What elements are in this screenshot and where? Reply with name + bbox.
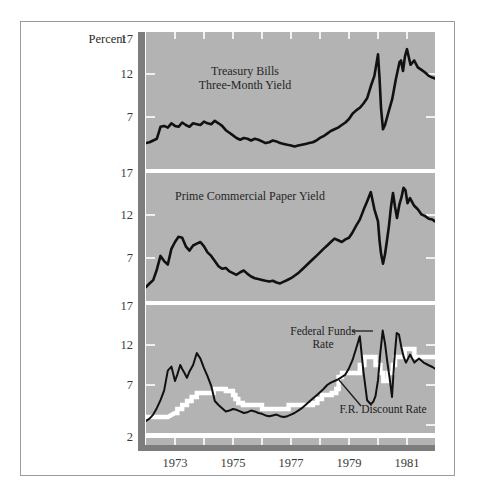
annotation-fr-discount-rate: F.R. Discount Rate — [339, 403, 426, 415]
panel-separator-2-3 — [146, 301, 435, 305]
panel3-baseline-band — [146, 433, 435, 438]
panel-title-treasury-bills-line1: Treasury Bills — [211, 64, 279, 78]
panel3-ytick-2: 2 — [127, 430, 133, 444]
xtick-label-1973: 1973 — [163, 456, 188, 470]
xtick-label-1977: 1977 — [279, 456, 304, 470]
panel2-ytick-12: 12 — [121, 208, 134, 222]
panel3-ytick-17: 17 — [121, 299, 134, 313]
chart-figure: Treasury Bills Three-Month Yield Prime C… — [0, 0, 477, 498]
xtick-label-1979: 1979 — [337, 456, 362, 470]
panel-title-treasury-bills-line2: Three-Month Yield — [199, 78, 292, 92]
panel1-ytick-12: 12 — [121, 67, 134, 81]
panel3-ytick-12: 12 — [121, 338, 134, 352]
annotation-federal-funds-rate-line1: Federal Funds — [290, 325, 356, 337]
panel2-ytick-17: 17 — [121, 166, 134, 180]
annotation-federal-funds-rate-line2: Rate — [312, 338, 333, 350]
xtick-label-1975: 1975 — [221, 456, 246, 470]
panel-separator-1-2 — [146, 169, 435, 173]
panel1-ytick-7: 7 — [127, 110, 133, 124]
x-axis-spine — [138, 445, 435, 451]
xtick-label-1981: 1981 — [395, 456, 420, 470]
chart-plot-svg: Treasury Bills Three-Month Yield Prime C… — [0, 0, 477, 498]
panel2-ytick-7: 7 — [127, 251, 133, 265]
panel3-ytick-7: 7 — [127, 378, 133, 392]
y-axis-spine — [138, 32, 145, 445]
panel1-ytick-17: 17 — [121, 32, 134, 46]
panel-title-commercial-paper: Prime Commercial Paper Yield — [175, 189, 325, 203]
